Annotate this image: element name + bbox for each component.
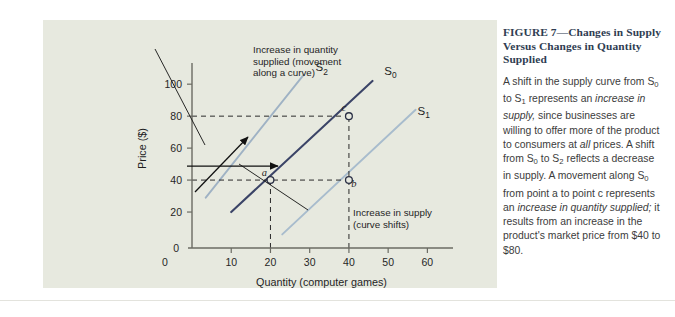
x-tick-label: 20: [265, 256, 277, 268]
x-tick-label: 30: [304, 256, 316, 268]
curve-label-S0: S0: [384, 65, 397, 80]
data-point-label-c: c: [342, 102, 347, 113]
x-tick-label: 50: [382, 256, 394, 268]
x-axis-title: Quantity (computer games): [256, 276, 387, 288]
data-point-a: [267, 177, 274, 184]
supply-curve-chart: S0S2S1 0204060801000102030405060Quantity…: [43, 20, 497, 288]
x-tick-label: 10: [225, 256, 237, 268]
data-point-label-b: b: [351, 178, 356, 189]
y-tick-label: 60: [170, 142, 182, 154]
y-tick-label: 40: [170, 174, 182, 186]
quantity-callout-leader: [155, 49, 205, 145]
caption-column: FIGURE 7—Changes in Supply Versus Change…: [503, 26, 663, 258]
figure-root: S0S2S1 0204060801000102030405060Quantity…: [0, 0, 675, 317]
data-point-label-a: a: [262, 167, 267, 178]
bottom-divider: [0, 300, 675, 301]
chart-annotations-group: Increase in quantitysupplied (movemental…: [253, 44, 432, 230]
chart-panel: S0S2S1 0204060801000102030405060Quantity…: [43, 20, 497, 288]
x-tick-label: 0: [162, 256, 168, 268]
axes-group: 0204060801000102030405060Quantity (compu…: [136, 63, 453, 288]
y-tick-label: 80: [170, 110, 182, 122]
curve-label-S1: S1: [418, 105, 431, 120]
x-tick-label: 40: [343, 256, 355, 268]
y-axis-title: Price ($): [136, 128, 148, 169]
data-point-markers-group: acb: [262, 102, 357, 189]
y-tick-label: 0: [173, 242, 179, 254]
supply-curve-S2: [206, 75, 304, 198]
annotation-increase-in-quantity-supplied: Increase in quantitysupplied (movemental…: [253, 44, 341, 78]
figure-title: FIGURE 7—Changes in Supply Versus Change…: [503, 26, 663, 67]
y-tick-label: 20: [170, 206, 182, 218]
annotation-increase-in-supply: Increase in supply(curve shifts): [353, 207, 432, 230]
figure-caption-body: A shift in the supply curve from S0 to S…: [503, 75, 663, 258]
supply-curve-S0: [231, 81, 372, 212]
x-tick-label: 60: [422, 256, 434, 268]
data-point-c: [346, 113, 353, 120]
supply-callout-leader: [239, 164, 308, 210]
